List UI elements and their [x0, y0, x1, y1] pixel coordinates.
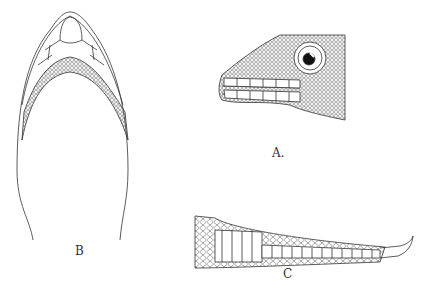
panel-b-label: B — [75, 244, 84, 258]
panel-a-drawing — [219, 35, 345, 120]
figure-canvas: A. B C — [0, 0, 421, 295]
illustration — [0, 0, 421, 295]
panel-a-label: A. — [272, 146, 284, 160]
panel-b-drawing — [17, 12, 128, 240]
panel-c-drawing — [195, 216, 413, 268]
panel-c-label: C — [283, 267, 292, 281]
